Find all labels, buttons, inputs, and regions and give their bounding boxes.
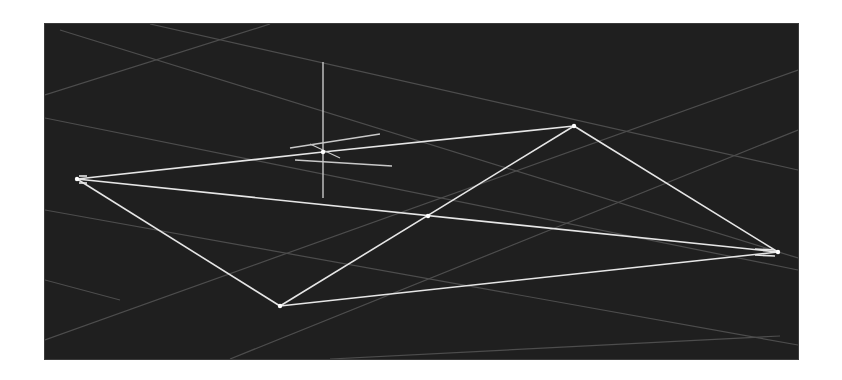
mesh-edge[interactable]	[323, 126, 574, 152]
vertex-markers[interactable]	[75, 124, 780, 308]
mesh-edge[interactable]	[77, 152, 323, 179]
grid-line	[60, 30, 798, 258]
wireframe-scene[interactable]	[0, 0, 842, 380]
grid-line	[45, 70, 798, 340]
vertex-pivot[interactable]	[321, 150, 325, 154]
grid-line	[45, 280, 120, 300]
vertex-top[interactable]	[572, 124, 576, 128]
gizmo-axis-x[interactable]	[290, 134, 380, 148]
vertex-right[interactable]	[776, 250, 780, 254]
gizmo-axis-y[interactable]	[295, 160, 392, 166]
grid-line	[330, 336, 780, 359]
mesh-edge[interactable]	[755, 255, 775, 256]
vertex-left[interactable]	[75, 177, 79, 181]
grid-line	[150, 24, 798, 170]
ground-grid	[45, 24, 798, 359]
vertex-bottom[interactable]	[278, 304, 282, 308]
mesh-edge[interactable]	[574, 126, 778, 252]
mesh-edge[interactable]	[77, 179, 280, 306]
mesh-edge[interactable]	[755, 249, 775, 250]
vertex-center-cross[interactable]	[426, 214, 430, 218]
